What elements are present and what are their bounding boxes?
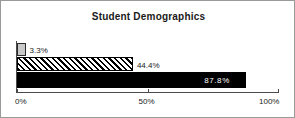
bar-value-label: 87.8%: [204, 76, 230, 85]
x-axis-tick: [17, 89, 18, 93]
x-axis-tick: [278, 89, 279, 93]
plot-area: 3.3% 44.4% 87.8%: [17, 41, 278, 91]
bar-gray: [17, 43, 26, 56]
x-axis-tick-label: 100%: [259, 97, 279, 106]
chart-title: Student Demographics: [1, 11, 295, 22]
bar-value-label: 3.3%: [30, 46, 48, 55]
x-axis-tick-label: 0%: [15, 97, 27, 106]
bar-hatched: [17, 57, 133, 71]
bar-value-label: 44.4%: [137, 61, 160, 70]
x-axis-tick-label: 50%: [139, 97, 155, 106]
chart-container: Student Demographics 3.3% 44.4% 87.8% 0%…: [0, 0, 295, 118]
x-axis-tick: [148, 89, 149, 93]
